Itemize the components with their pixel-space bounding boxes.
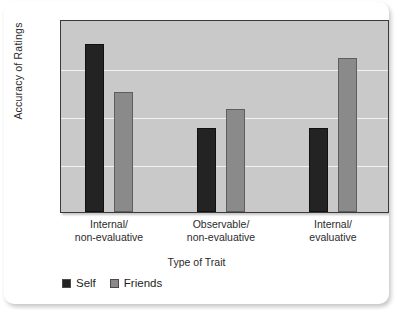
bar-self-internal-non-evaluative	[85, 44, 104, 212]
y-axis-title: Accuracy of Ratings	[12, 2, 24, 151]
legend-entry-friends: Friends	[110, 277, 162, 289]
x-group-label-0-line-1: Internal/	[49, 218, 169, 231]
figure-card: Accuracy of Ratings 0.4 0.3 0.2 0.1 0 In…	[4, 2, 389, 304]
bar-friends-internal-evaluative	[338, 58, 357, 212]
legend-label-self: Self	[76, 277, 96, 289]
plot-area	[61, 21, 388, 212]
x-group-label-1: Observable/ non-evaluative	[161, 218, 281, 244]
legend-swatch-friends-icon	[110, 279, 119, 288]
x-group-label-2-line-1: Internal/	[273, 218, 389, 231]
plot-frame	[60, 20, 389, 213]
bar-friends-internal-non-evaluative	[114, 92, 133, 212]
legend-swatch-self-icon	[62, 279, 71, 288]
x-group-label-0: Internal/ non-evaluative	[49, 218, 169, 244]
legend-entry-self: Self	[62, 277, 96, 289]
x-group-label-0-line-2: non-evaluative	[49, 231, 169, 244]
bar-self-internal-evaluative	[309, 128, 328, 212]
x-group-label-2-line-2: evaluative	[273, 231, 389, 244]
x-axis-title: Type of Trait	[4, 256, 389, 268]
chart-legend: Self Friends	[62, 277, 162, 289]
x-group-label-1-line-2: non-evaluative	[161, 231, 281, 244]
x-group-label-1-line-1: Observable/	[161, 218, 281, 231]
x-group-label-2: Internal/ evaluative	[273, 218, 389, 244]
bar-self-observable-non-evaluative	[197, 128, 216, 212]
legend-label-friends: Friends	[124, 277, 162, 289]
bar-friends-observable-non-evaluative	[226, 109, 245, 212]
